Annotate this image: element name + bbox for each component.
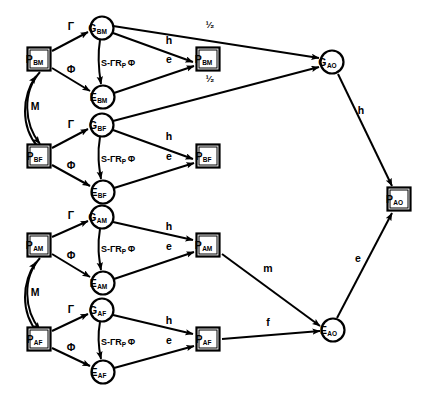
p-bf-box[interactable]: PBF: [26, 145, 50, 168]
p-bm-out-box[interactable]: PBM: [195, 48, 220, 71]
edge-gbm-ebm-label: S-ΓRPΦ: [101, 58, 136, 69]
edge-gao-pao: [338, 74, 392, 186]
g-am-node[interactable]: GAM: [88, 206, 113, 229]
edge-gbm-pbm-label: h: [166, 34, 172, 46]
edge-gam-pam: [113, 222, 193, 240]
edge-gaf-eaf-label: S-ΓRPΦ: [101, 337, 136, 348]
p-af-box[interactable]: PAF: [26, 328, 50, 351]
edge-eam-pam-label: e: [166, 240, 172, 252]
e-ao-node[interactable]: EAO: [320, 319, 345, 342]
edge-eao-pao-label: e: [355, 252, 361, 264]
edge-paf-gaf-label: Γ: [68, 303, 75, 315]
e-am-node[interactable]: EAM: [90, 272, 115, 295]
edge-ebm-pbm-label: e: [166, 53, 172, 65]
edge-ebm-pbm: [114, 66, 194, 93]
edge-paf-gaf: [52, 314, 88, 331]
g-ao-node[interactable]: GAO: [318, 51, 343, 74]
edge-gam-pam-label: h: [166, 220, 172, 232]
edge-pam-eao-label: m: [263, 262, 272, 274]
edge-pam-gam-label: Γ: [68, 209, 75, 221]
edge-pbm-gbm-label: Γ: [68, 20, 75, 32]
edge-gao-pao-label: h: [358, 104, 364, 116]
edge-gbf-ebf-label: S-ΓRPΦ: [101, 154, 136, 165]
edge-pbf-ebf-label: Φ: [67, 159, 76, 171]
diagram-canvas: PBMGBMEBMPBMPBFGBFEBFPBFPAMGAMEAMPAMPAFG…: [0, 0, 426, 400]
edge-m-upper-label: M: [31, 100, 40, 112]
g-af-node[interactable]: GAF: [89, 299, 114, 322]
edge-gbf-gao: [113, 67, 319, 121]
edge-m-lower-label: M: [31, 286, 40, 298]
node-layer: PBMGBMEBMPBMPBFGBFEBFPBFPAMGAMEAMPAMPAFG…: [26, 17, 411, 384]
p-bm-box[interactable]: PBM: [26, 48, 51, 71]
edge-gaf-paf-label: h: [166, 314, 172, 326]
edge-eam-pam: [114, 252, 194, 279]
edge-gam-eam-label: S-ΓRPΦ: [101, 244, 136, 255]
edge-pbm-gbm: [52, 32, 88, 51]
e-bf-node[interactable]: EBF: [90, 181, 114, 204]
edge-paf-eaf-label: Φ: [67, 341, 76, 353]
g-bf-node[interactable]: GBF: [89, 114, 114, 137]
edge-eaf-paf: [114, 346, 194, 368]
g-bm-node[interactable]: GBM: [88, 17, 113, 40]
edge-gbf-gao-label: ¹⁄₂: [206, 74, 215, 84]
edge-pbm-ebm-label: Φ: [67, 63, 76, 75]
edge-paf-eao: [222, 331, 320, 339]
diagram-svg: PBMGBMEBMPBMPBFGBFEBFPBFPAMGAMEAMPAMPAFG…: [0, 0, 426, 400]
edge-pam-gam: [52, 221, 88, 237]
edge-eaf-paf-label: e: [166, 334, 172, 346]
p-am-out-box[interactable]: PAM: [195, 234, 220, 257]
p-am-box[interactable]: PAM: [26, 234, 51, 257]
edge-eao-pao: [337, 213, 392, 318]
edge-gbf-pbf-label: h: [166, 130, 172, 142]
edge-gbm-gao-label: ¹⁄₂: [206, 20, 215, 30]
e-bm-node[interactable]: EBM: [90, 86, 115, 109]
p-bf-out-box[interactable]: PBF: [195, 145, 219, 168]
e-af-node[interactable]: EAF: [90, 361, 114, 384]
edge-ebf-pbf: [114, 163, 194, 188]
edge-gaf-paf: [113, 315, 193, 334]
p-ao-box[interactable]: PAO: [386, 188, 411, 211]
edge-pbf-gbf: [52, 129, 88, 148]
edge-pam-eam-label: Φ: [67, 249, 76, 261]
edge-pbf-gbf-label: Γ: [68, 118, 75, 130]
edge-gbf-pbf: [113, 130, 193, 159]
edge-paf-eao-label: f: [266, 316, 270, 328]
edge-ebf-pbf-label: e: [166, 150, 172, 162]
p-af-out-box[interactable]: PAF: [195, 328, 219, 351]
